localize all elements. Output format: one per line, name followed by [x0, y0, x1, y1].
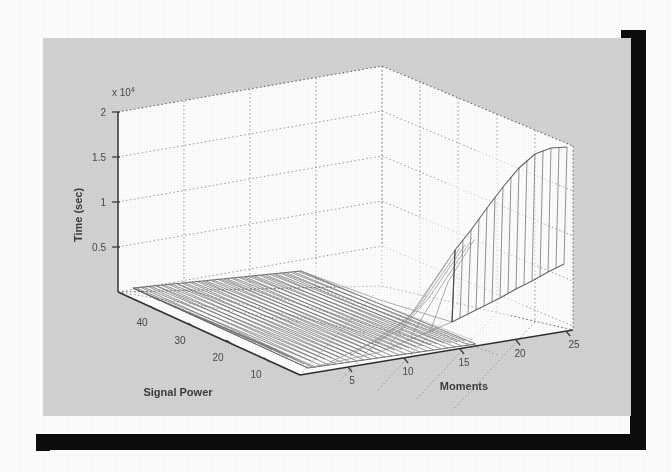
y-tick-label-10: 10	[402, 366, 414, 377]
x-tick-label-20: 20	[212, 352, 224, 363]
z-axis-exponent-label: x 104	[112, 86, 135, 98]
z-axis-title: Time (sec)	[72, 188, 84, 243]
y-axis-title: Moments	[440, 380, 488, 392]
x-axis-title: Signal Power	[143, 386, 213, 398]
x-tick-label-40: 40	[136, 317, 148, 328]
scanned-page: x 104 2 1.5 1 0.5 Time (sec) 40 30 20 10…	[0, 0, 672, 472]
y-tick-label-5: 5	[349, 375, 355, 386]
z-tick-label-1: 1	[100, 197, 106, 208]
surface-plot: x 104 2 1.5 1 0.5 Time (sec) 40 30 20 10…	[0, 0, 672, 472]
z-tick-label-2: 2	[100, 107, 106, 118]
x-tick-label-30: 30	[174, 335, 186, 346]
y-tick-label-20: 20	[514, 348, 526, 359]
x-tick-label-10: 10	[250, 369, 262, 380]
z-tick-label-1-5: 1.5	[92, 152, 106, 163]
z-tick-label-0-5: 0.5	[92, 242, 106, 253]
y-tick-label-15: 15	[458, 357, 470, 368]
y-tick-label-25: 25	[568, 339, 580, 350]
